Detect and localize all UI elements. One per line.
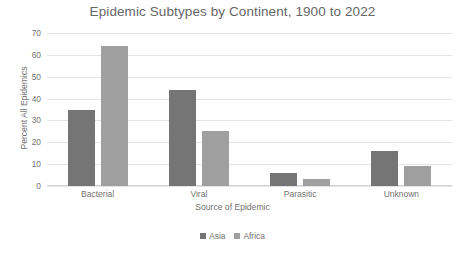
x-tick-label: Parasitic — [250, 189, 351, 199]
y-tick-label: 60 — [11, 51, 41, 59]
x-axis-title: Source of Epidemic — [0, 202, 465, 212]
legend-swatch-icon — [200, 233, 206, 239]
chart-legend: AsiaAfrica — [0, 231, 465, 241]
legend-swatch-icon — [234, 233, 240, 239]
y-tick-label: 50 — [11, 73, 41, 81]
legend-label: Asia — [209, 231, 225, 241]
y-tick-label: 70 — [11, 29, 41, 37]
bar-africa-bacterial — [101, 46, 128, 186]
x-axis-tick-labels: BacterialViralParasiticUnknown — [47, 189, 452, 203]
bar-africa-parasitic — [303, 179, 330, 186]
x-tick-label: Viral — [148, 189, 249, 199]
legend-item-africa[interactable]: Africa — [234, 231, 264, 241]
plot-area — [47, 33, 452, 186]
bar-africa-viral — [202, 131, 229, 186]
bar-asia-viral — [169, 90, 196, 186]
bar-asia-bacterial — [68, 110, 95, 187]
y-tick-label: 40 — [11, 95, 41, 103]
bar-group — [351, 33, 452, 186]
legend-item-asia[interactable]: Asia — [200, 231, 225, 241]
bar-asia-unknown — [371, 151, 398, 186]
y-axis-tick-labels: 706050403020100 — [8, 33, 41, 186]
y-tick-label: 20 — [11, 138, 41, 146]
y-tick-label: 30 — [11, 116, 41, 124]
y-tick-label: 0 — [11, 182, 41, 190]
x-tick-label: Unknown — [351, 189, 452, 199]
bar-asia-parasitic — [270, 173, 297, 186]
chart-title: Epidemic Subtypes by Continent, 1900 to … — [0, 4, 465, 19]
bar-group — [148, 33, 249, 186]
bar-africa-unknown — [404, 166, 431, 186]
gridline — [47, 186, 452, 187]
legend-label: Africa — [243, 231, 264, 241]
bar-group — [250, 33, 351, 186]
y-tick-label: 10 — [11, 160, 41, 168]
x-tick-label: Bacterial — [47, 189, 148, 199]
chart-container: Epidemic Subtypes by Continent, 1900 to … — [0, 0, 465, 253]
bar-group — [47, 33, 148, 186]
